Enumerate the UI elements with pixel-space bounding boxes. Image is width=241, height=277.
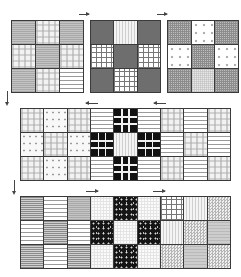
fabric-patch-gray-hstripe-fine [21,197,43,220]
fabric-patch-light-plaid [208,109,230,132]
fabric-patch-white-hstripe [184,157,206,180]
fabric-patch-white-hstripe [44,197,66,220]
arrow-down-1 [7,91,8,104]
fabric-patch-light-plaid [21,109,43,132]
fabric-patch-gray-hstripe-fine [68,245,90,268]
fabric-patch-gray-hstripe [36,45,59,68]
fabric-patch-light-plaid [36,69,59,92]
fabric-patch-light-plaid [184,133,206,156]
fabric-patch-dark-solid [138,69,160,92]
fabric-patch-light-vstripe [114,21,136,44]
nine-patch-block-a [11,20,84,93]
fabric-patch-gray-hstripe [68,197,90,220]
fabric-patch-gray-hstripe [12,69,35,92]
fabric-patch-gray-hstripe-fine [21,245,43,268]
fabric-patch-white-hstripe [161,133,183,156]
fabric-patch-light-check [192,69,215,92]
arrow-right-1 [79,14,89,15]
fabric-patch-black-floral [91,221,113,244]
fabric-patch-light-plaid [21,157,43,180]
fabric-patch-light-plaid [161,157,183,180]
combined-strip-row-3 [20,196,231,269]
fabric-patch-light-grid [91,197,113,220]
arrow-left-2 [154,103,166,104]
fabric-patch-light-plaid [44,133,66,156]
fabric-patch-dark-solid [91,69,113,92]
fabric-patch-fine-check [168,69,191,92]
fabric-patch-gray-hstripe-fine [44,221,66,244]
fabric-patch-white-hstripe [60,69,83,92]
arrow-right-3 [86,191,98,192]
fabric-patch-dotted-light [44,109,66,132]
fabric-patch-white-hstripe [138,157,160,180]
fabric-patch-checker [161,245,183,268]
fabric-patch-checker [208,197,230,220]
fabric-patch-light-vstripe [161,221,183,244]
fabric-patch-light-plaid [12,45,35,68]
arrow-left-1 [86,103,98,104]
fabric-patch-white-hstripe [91,157,113,180]
arrow-down-2 [14,180,15,193]
fabric-patch-light-plaid [60,45,83,68]
fabric-patch-white-hstripe [91,109,113,132]
fabric-patch-windowpane [91,45,113,68]
fabric-patch-dark-solid [114,45,136,68]
fabric-patch-light-plaid [68,109,90,132]
fabric-patch-white-hstripe [138,109,160,132]
fabric-patch-white-hstripe [21,221,43,244]
fabric-patch-light-grid [114,221,136,244]
fabric-patch-black-plaid [91,133,113,156]
fabric-patch-dark-solid [91,21,113,44]
fabric-patch-windowpane [161,197,183,220]
fabric-patch-gray-hstripe [60,21,83,44]
fabric-patch-black-floral [138,221,160,244]
fabric-patch-checker [208,245,230,268]
fabric-patch-black-floral [114,197,136,220]
fabric-patch-light-grid [138,197,160,220]
fabric-patch-light-vstripe [184,197,206,220]
fabric-patch-white-hstripe [68,221,90,244]
fabric-patch-windowpane [138,45,160,68]
fabric-patch-light-plaid [208,157,230,180]
fabric-patch-black-plaid [138,133,160,156]
fabric-patch-light-grid [91,245,113,268]
fabric-patch-light-vstripe [114,133,136,156]
fabric-patch-gray-hstripe [12,21,35,44]
fabric-patch-dots [192,21,215,44]
fabric-patch-black-plaid [114,109,136,132]
fabric-patch-dotted-light [21,133,43,156]
fabric-patch-windowpane [114,69,136,92]
fabric-patch-fine-check [192,45,215,68]
fabric-patch-light-plaid [68,157,90,180]
fabric-patch-dotted-light [68,133,90,156]
fabric-patch-white-hstripe [208,133,230,156]
arrow-right-4 [153,191,165,192]
fabric-patch-black-plaid [114,157,136,180]
nine-patch-block-b [90,20,161,93]
fabric-patch-fine-check [215,21,238,44]
fabric-patch-dark-solid [138,21,160,44]
fabric-patch-light-plaid [161,109,183,132]
fabric-patch-white-hstripe [184,109,206,132]
fabric-patch-white-hstripe [44,245,66,268]
fabric-patch-checker [184,221,206,244]
fabric-patch-dots [168,45,191,68]
arrow-right-2 [157,14,167,15]
fabric-patch-fine-check [215,69,238,92]
fabric-patch-dots [215,45,238,68]
fabric-patch-gray-hline [184,245,206,268]
fabric-patch-gray-hline [208,221,230,244]
nine-patch-block-c [167,20,239,93]
combined-strip-row-2 [20,108,231,181]
fabric-patch-fine-check [168,21,191,44]
fabric-patch-light-grid [138,245,160,268]
fabric-patch-dotted-light [44,157,66,180]
fabric-patch-black-floral [114,245,136,268]
fabric-patch-light-plaid [36,21,59,44]
